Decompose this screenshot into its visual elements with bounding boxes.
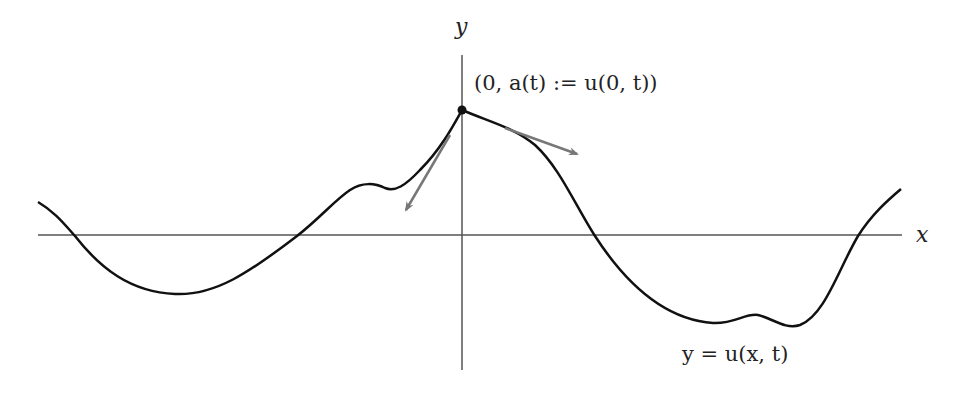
x-axis-label: x	[916, 222, 928, 247]
point-label: (0, a(t) := u(0, t))	[474, 71, 658, 95]
y-axis-label: y	[455, 14, 467, 39]
tangent-arrow-left	[406, 135, 450, 210]
diagram-canvas	[0, 0, 968, 396]
curve-u	[38, 110, 901, 326]
corner-point	[458, 106, 467, 115]
curve-label: y = u(x, t)	[682, 342, 788, 366]
